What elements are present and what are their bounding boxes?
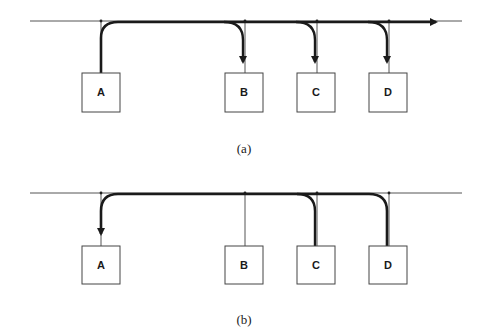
node-label: B [240, 259, 248, 271]
signal-branch-b-C [297, 194, 315, 246]
node-b-B: B [225, 246, 263, 284]
caption-a: (a) [237, 141, 251, 156]
node-label: A [97, 86, 105, 98]
tap-dot-b-A [100, 192, 103, 195]
node-label: D [384, 86, 392, 98]
bus-broadcast-diagram: A B C D (a) A [0, 0, 485, 334]
tap-dot-a-A [100, 20, 103, 23]
diagram-b: A B C D (b) [30, 192, 462, 327]
diagram-a: A B C D (a) [30, 20, 462, 156]
node-label: C [312, 259, 320, 271]
caption-b: (b) [236, 312, 251, 327]
signal-branch-a-B [224, 22, 243, 62]
node-a-D: D [369, 73, 407, 112]
signal-branch-a-D [368, 22, 387, 62]
node-label: A [97, 259, 105, 271]
node-a-C: C [297, 73, 335, 112]
node-label: C [312, 86, 320, 98]
tap-dot-b-D [388, 192, 391, 195]
node-b-A: A [82, 246, 120, 284]
node-a-A: A [82, 73, 120, 112]
node-b-D: D [369, 246, 407, 284]
node-a-B: B [225, 73, 263, 112]
node-label: D [384, 259, 392, 271]
signal-branch-a-C [296, 22, 315, 62]
signal-path-b-main [101, 194, 387, 246]
node-label: B [240, 86, 248, 98]
node-b-C: C [297, 246, 335, 284]
